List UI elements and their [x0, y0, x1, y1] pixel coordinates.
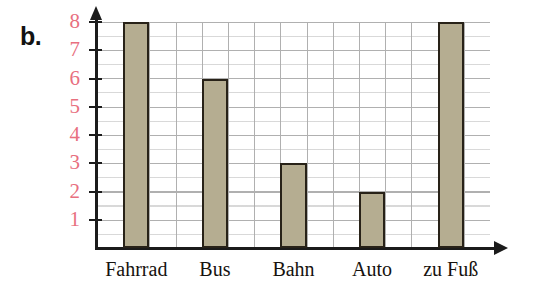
- y-axis-tick: [89, 49, 102, 51]
- y-axis-tick: [89, 106, 102, 108]
- y-axis-tick-label: 5: [54, 94, 80, 119]
- y-axis-tick: [89, 219, 102, 221]
- y-axis-tick: [89, 21, 102, 23]
- y-axis-tick-label: 7: [54, 37, 80, 62]
- x-axis-label-zu-fuß: zu Fuß: [423, 258, 478, 281]
- y-axis-tick-label: 4: [54, 122, 80, 147]
- part-label: b.: [20, 22, 41, 51]
- bar-chart-figure: b. 12345678 FahrradBusBahnAutozu Fuß: [0, 0, 536, 290]
- x-axis-label-auto: Auto: [352, 258, 392, 281]
- bar-fahrrad: [123, 22, 149, 248]
- bar-bahn: [280, 163, 306, 248]
- y-axis-tick: [89, 162, 102, 164]
- y-axis-tick-label: 3: [54, 150, 80, 175]
- y-axis-tick-label: 8: [54, 9, 80, 34]
- x-axis-label-bus: Bus: [199, 258, 230, 281]
- y-axis-tick-label: 6: [54, 66, 80, 91]
- y-axis-tick-label: 1: [54, 207, 80, 232]
- x-axis-label-bahn: Bahn: [272, 258, 314, 281]
- y-axis-tick-label: 2: [54, 179, 80, 204]
- x-axis-label-fahrrad: Fahrrad: [105, 258, 167, 281]
- bar-zu-fuß: [438, 22, 464, 248]
- y-axis-arrow-icon: [90, 6, 102, 20]
- y-axis-tick: [89, 78, 102, 80]
- y-axis-tick: [89, 134, 102, 136]
- bar-auto: [359, 192, 385, 249]
- x-axis-arrow-icon: [494, 241, 508, 255]
- y-axis-tick: [89, 191, 102, 193]
- bar-bus: [202, 79, 228, 249]
